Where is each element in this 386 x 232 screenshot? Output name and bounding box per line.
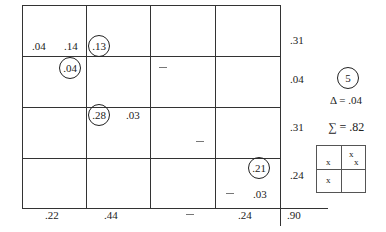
grid-line <box>22 5 280 6</box>
grid-line <box>317 169 365 170</box>
grid-line <box>280 5 281 208</box>
col-total: .22 <box>45 209 59 221</box>
dash-mark <box>226 193 234 194</box>
mini-mark: x <box>326 158 331 167</box>
row-total: .31 <box>290 34 304 46</box>
circled-cell-value: .28 <box>88 104 110 126</box>
grid-line <box>86 5 87 208</box>
grid-line <box>215 5 216 208</box>
grand-total: .90 <box>287 209 301 221</box>
cell-value: .04 <box>32 40 46 52</box>
cell-value: .03 <box>253 188 267 200</box>
row-total: .04 <box>290 73 304 85</box>
mini-grid: x x x x <box>316 145 366 193</box>
dash-mark <box>196 141 204 142</box>
mini-mark: x <box>349 150 354 159</box>
sum-label: ∑ = .82 <box>328 121 364 133</box>
circled-cell-value: .04 <box>59 57 81 79</box>
transport-grid <box>22 5 280 208</box>
grid-line <box>22 5 23 208</box>
step-number-badge: 5 <box>337 67 359 89</box>
grid-line <box>22 158 280 159</box>
grid-line <box>22 107 280 108</box>
totals-divider <box>280 208 281 226</box>
grid-line <box>22 56 280 57</box>
dash-mark <box>186 214 194 215</box>
dash-mark <box>159 67 167 68</box>
mini-mark: x <box>326 176 331 185</box>
circled-cell-value: .21 <box>248 157 270 179</box>
row-total: .31 <box>290 121 304 133</box>
circled-cell-value: .13 <box>88 35 110 57</box>
totals-line <box>22 208 328 209</box>
cell-value: .14 <box>64 40 78 52</box>
grid-line <box>150 5 151 208</box>
cell-value: .03 <box>126 109 140 121</box>
col-total: .44 <box>104 209 118 221</box>
row-total: .24 <box>290 169 304 181</box>
col-total: .24 <box>238 209 252 221</box>
mini-mark: x <box>354 158 359 167</box>
delta-label: Δ = .04 <box>330 94 362 106</box>
